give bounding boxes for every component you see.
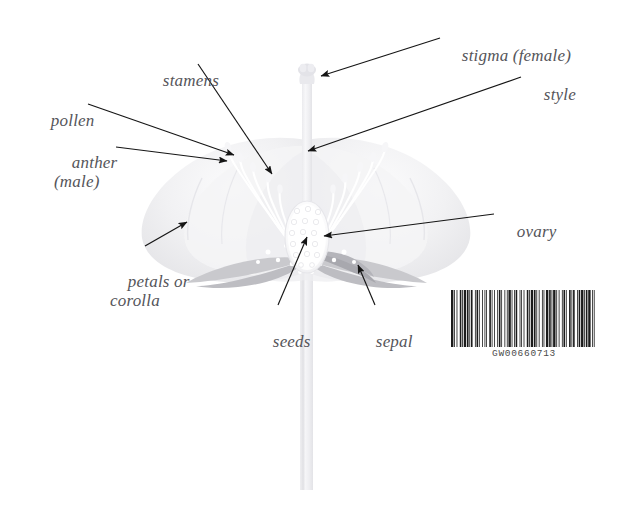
label-sepal-text: sepal bbox=[376, 332, 413, 351]
label-ovary: ovary bbox=[499, 203, 557, 260]
label-style: style bbox=[526, 66, 576, 123]
label-stamens: stamens bbox=[145, 52, 219, 109]
label-seeds: seeds bbox=[255, 313, 311, 370]
label-style-text: style bbox=[544, 85, 576, 104]
label-petals: petals orcorolla bbox=[110, 252, 190, 330]
label-petals-text: petals orcorolla bbox=[110, 272, 190, 311]
label-anther-text: anther(male) bbox=[54, 153, 117, 192]
barcode-number: GW00660713 bbox=[449, 348, 599, 359]
diagram-page: stigma (female) style stamens pollen ant… bbox=[0, 0, 622, 505]
label-stigma-text: stigma (female) bbox=[462, 46, 571, 65]
pedicel-group bbox=[300, 268, 313, 490]
label-pollen-text: pollen bbox=[51, 111, 95, 130]
label-sepal: sepal bbox=[358, 313, 413, 370]
stigma-lobe-left bbox=[300, 64, 307, 72]
label-anther: anther(male) bbox=[54, 133, 117, 211]
pedicel-shade bbox=[302, 268, 305, 490]
barcode: GW00660713 bbox=[449, 288, 599, 370]
style-leader bbox=[308, 77, 521, 151]
stigma-lobe-right bbox=[308, 64, 315, 72]
label-stamens-text: stamens bbox=[163, 71, 219, 90]
label-seeds-text: seeds bbox=[273, 332, 311, 351]
stigma-leader bbox=[321, 38, 440, 76]
barcode-bars bbox=[451, 290, 597, 347]
label-ovary-text: ovary bbox=[517, 222, 557, 241]
